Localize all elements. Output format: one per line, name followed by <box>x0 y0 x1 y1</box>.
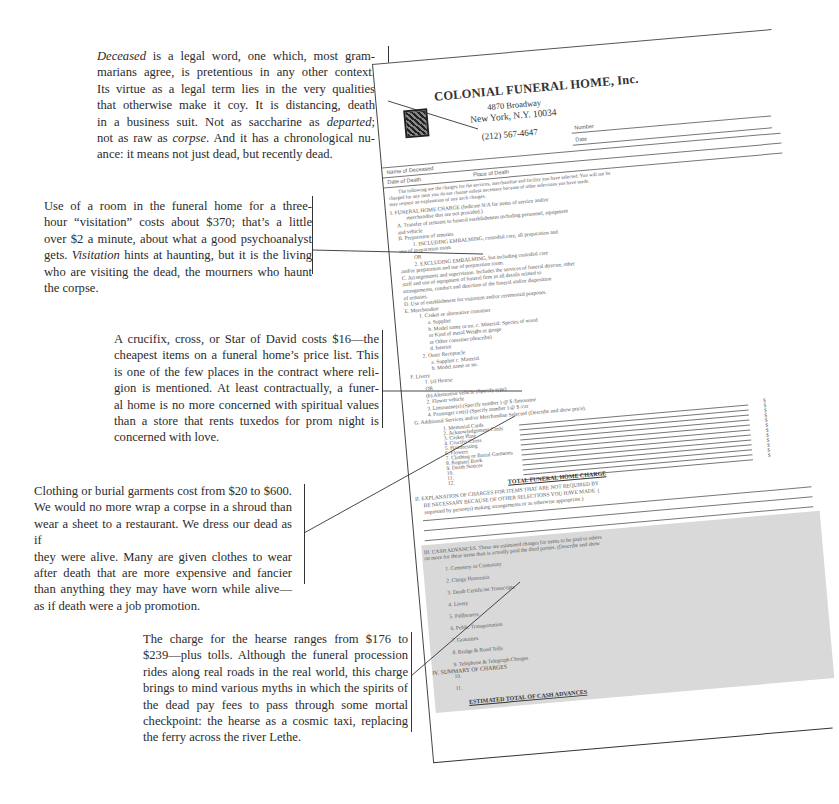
annotation-line: Use of a room in the funeral home for a … <box>44 198 312 214</box>
annotation-line: al home is no more concerned with spirit… <box>114 397 379 413</box>
annotation-line: in a business suit. Not as saccharine as… <box>97 114 375 130</box>
annotation-line: concerned with love. <box>114 429 379 445</box>
annotation-line: than a store that rents tuxedos for prom… <box>114 413 379 429</box>
company-phone: (212) 567-4647 <box>481 127 538 142</box>
cash-advance-item: 11. <box>455 685 462 692</box>
annotation-hearse-text: The charge for the hearse ranges from $1… <box>143 631 408 746</box>
funeral-home-logo-icon <box>403 108 429 138</box>
annotation-visitation-text: Use of a room in the funeral home for a … <box>44 198 312 296</box>
annotation-line: after death that are more expensive and … <box>34 565 292 581</box>
annotation-line: cheapest items on a funeral home’s price… <box>114 347 379 363</box>
annotation-line: who are visiting the dead, the mourners … <box>44 264 312 280</box>
annotation-line: Its virtue as a legal term lies in the v… <box>97 81 375 97</box>
annotation-line: that otherwise make it coy. It is distan… <box>97 97 375 113</box>
annotation-line: not as raw as corpse. And it has a chron… <box>97 130 375 146</box>
amount-field-line <box>523 454 752 475</box>
annotation-line: over $2 a minute, about what a good psyc… <box>44 231 312 247</box>
annotation-line: gets. Visitation hints at haunting, but … <box>44 247 312 263</box>
annotation-line: We would no more wrap a corpse in a shro… <box>34 499 292 515</box>
annotation-line: ance: it means not just dead, but recent… <box>97 146 375 162</box>
annotation-line: Deceased is a legal word, one which, mos… <box>97 48 375 64</box>
annotation-line: checkpoint: the hearse as a cosmic taxi,… <box>143 713 408 729</box>
section-1-item: 1. (a) Hearse <box>425 377 453 386</box>
annotation-line: The charge for the hearse ranges from $1… <box>143 631 408 647</box>
annotation-line: A crucifix, cross, or Star of David cost… <box>114 331 379 347</box>
annotation-clothing-bar <box>304 484 305 584</box>
annotation-hearse-bar <box>411 632 412 732</box>
funeral-contract-form: COLONIAL FUNERAL HOME, Inc. 4870 Broadwa… <box>372 31 812 761</box>
annotation-line: than anything they may have worn while a… <box>34 581 292 597</box>
annotation-line: the corpse. <box>44 280 312 296</box>
cash-advances-shaded-area <box>421 511 834 713</box>
section-1-additional-items: 1. Memorial Cards$2. Acknowledgement Car… <box>373 30 771 65</box>
annotation-line: hour “visitation” costs about $370; that… <box>44 214 312 230</box>
annotation-line: rides along real roads in the real world… <box>143 664 408 680</box>
annotation-line: brings to mind various myths in which th… <box>143 680 408 696</box>
annotation-clothing-text: Clothing or burial garments cost from $2… <box>34 483 292 614</box>
cash-advance-item: 10. <box>454 673 461 680</box>
annotation-deceased-text: Deceased is a legal word, one which, mos… <box>97 48 375 163</box>
annotation-deceased: Deceased is a legal word, one which, mos… <box>97 48 375 163</box>
annotation-crucifix-bar <box>382 330 383 428</box>
annotation-line: the ferry across the river Lethe. <box>143 729 408 745</box>
amount-field-line <box>523 449 752 470</box>
form-sheet: COLONIAL FUNERAL HOME, Inc. 4870 Broadwa… <box>372 29 833 763</box>
annotation-hearse: The charge for the hearse ranges from $1… <box>143 631 408 746</box>
section-3-items: 1. Cemetery or Crematory2. Clergy Honora… <box>373 30 771 65</box>
annotation-line: marians agree, is pretentious in any oth… <box>97 64 375 80</box>
annotation-line: gion is mentioned. At least contractuall… <box>114 380 379 396</box>
annotation-line: is one of the few places in the contract… <box>114 364 379 380</box>
section-1-item: (b) Alternative vehicle (Specify type) <box>426 385 507 398</box>
annotation-line: the dead pay fees to pass through some m… <box>143 697 408 713</box>
annotation-line: Clothing or burial garments cost from $2… <box>34 483 292 499</box>
dollar-sign: $ <box>768 452 771 458</box>
annotation-visitation-bar <box>312 196 313 274</box>
section-1-items: A. Transfer of remains to funeral establ… <box>373 30 771 65</box>
date-label: Date <box>575 136 587 143</box>
annotation-crucifix-text: A crucifix, cross, or Star of David cost… <box>114 331 379 446</box>
annotation-crucifix: A crucifix, cross, or Star of David cost… <box>114 331 379 446</box>
section-1-item: use of preparation room <box>399 244 451 255</box>
annotation-clothing: Clothing or burial garments cost from $2… <box>34 483 292 614</box>
annotation-line: as if death were a job promotion. <box>34 598 292 614</box>
annotation-line: they were alive. Many are given clothes … <box>34 549 292 565</box>
annotation-visitation: Use of a room in the funeral home for a … <box>44 198 312 296</box>
annotation-line: $239—plus tolls. Although the funeral pr… <box>143 647 408 663</box>
annotation-line: wear a sheet to a restaurant. We dress o… <box>34 516 292 549</box>
additional-service-item: 12. <box>448 479 455 486</box>
number-label: Number <box>574 123 594 131</box>
